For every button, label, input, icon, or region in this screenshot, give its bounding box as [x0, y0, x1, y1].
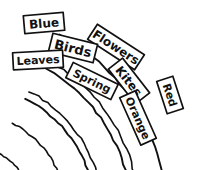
arc-label-orange: Orange: [120, 91, 157, 145]
arc-label-sketch: BlueFlowersRedBirdsKitesLeavesSpringOran…: [0, 0, 198, 170]
sketch-canvas: BlueFlowersRedBirdsKitesLeavesSpringOran…: [0, 0, 198, 170]
label-text: Leaves: [16, 53, 60, 68]
label-text: Blue: [29, 15, 60, 32]
arc-line-innermost-arc: [0, 152, 35, 170]
label-layer: BlueFlowersRedBirdsKitesLeavesSpringOran…: [13, 12, 184, 145]
arc-line-inner-band: [12, 123, 67, 170]
arc-line-inner-band: [25, 99, 95, 170]
arc-label-leaves: Leaves: [13, 50, 64, 70]
arc-label-blue: Blue: [23, 12, 64, 33]
arc-label-red: Red: [157, 76, 184, 114]
